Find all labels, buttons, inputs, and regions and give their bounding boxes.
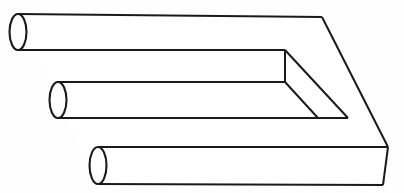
bottom-bar-fill bbox=[98, 147, 388, 185]
prong-top-end-cap-ellipse bbox=[10, 14, 27, 50]
trident-drawing-svg: Impossible Trident bbox=[0, 0, 404, 193]
prong-bottom-lower-edge bbox=[98, 184, 383, 185]
impossible-trident-figure: Impossible Trident bbox=[0, 0, 404, 193]
